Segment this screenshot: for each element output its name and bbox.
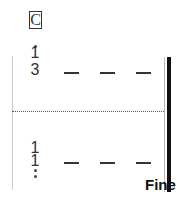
upper-dash [64, 72, 79, 74]
lower-dash [100, 162, 115, 164]
final-barline-thin [164, 57, 165, 192]
dot-marker [34, 169, 37, 172]
lower-dash [64, 162, 79, 164]
lower-dash [136, 162, 151, 164]
upper-numeral-2: 3 [29, 62, 41, 78]
upper-numeral-1: 1 [29, 45, 41, 61]
final-barline-thick [167, 57, 171, 192]
upper-dash [136, 72, 151, 74]
lower-numeral-2: 1 [29, 153, 41, 169]
dot-marker [34, 175, 37, 178]
staff-left-line [12, 56, 13, 190]
upper-dash [100, 72, 115, 74]
fine-label: Fine [145, 176, 176, 193]
dotted-divider [12, 111, 164, 112]
rehearsal-mark: C [29, 11, 42, 29]
